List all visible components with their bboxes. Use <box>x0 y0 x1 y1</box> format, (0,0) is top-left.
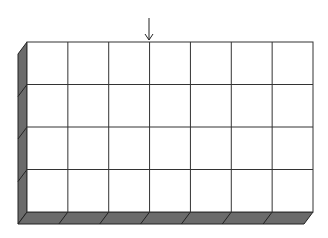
grid-box-diagram <box>0 0 328 238</box>
down-arrow-icon <box>145 18 153 40</box>
front-face-grid <box>27 42 313 212</box>
bottom-face <box>18 212 313 224</box>
left-side-face <box>18 42 27 224</box>
